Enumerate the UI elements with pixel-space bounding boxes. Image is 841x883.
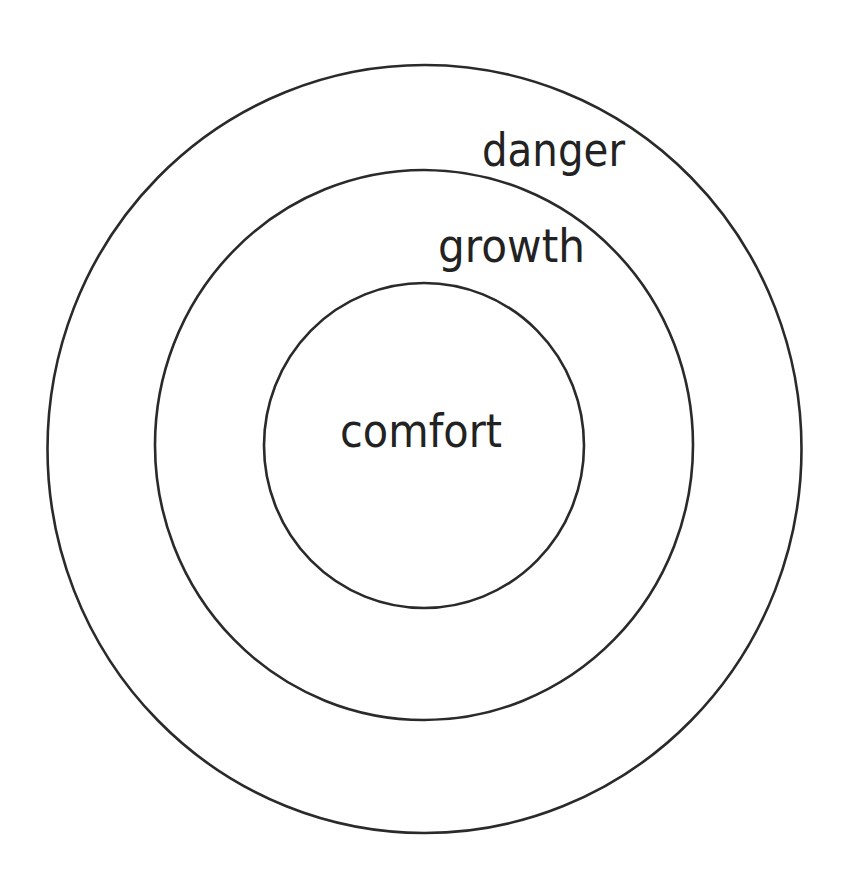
danger-zone-label: danger xyxy=(482,122,626,177)
comfort-zone-label: comfort xyxy=(340,403,502,458)
growth-zone-label: growth xyxy=(438,218,585,273)
concentric-zones-diagram: danger growth comfort xyxy=(0,0,841,883)
